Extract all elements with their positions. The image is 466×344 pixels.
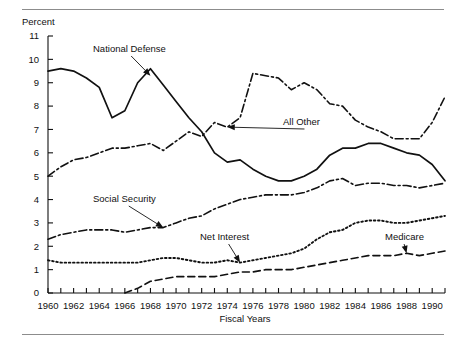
series-line-national-defense — [48, 69, 445, 181]
line-chart: 0123456789101119601962196419661968197019… — [0, 0, 466, 344]
x-axis-tick-label: 1980 — [294, 300, 315, 311]
x-axis-tick-label: 1960 — [37, 300, 58, 311]
annotation-leader-line — [229, 244, 237, 257]
series-annotation-label: Social Security — [93, 193, 156, 204]
x-axis-tick-label: 1988 — [396, 300, 417, 311]
series-annotation-label: National Defense — [93, 43, 166, 54]
y-axis-tick-label: 5 — [34, 171, 39, 182]
x-axis-title: Fiscal Years — [219, 313, 270, 324]
y-axis-tick-label: 3 — [34, 217, 39, 228]
x-axis-tick-label: 1978 — [268, 300, 289, 311]
series-group — [48, 69, 445, 293]
x-axis-tick-label: 1964 — [89, 300, 110, 311]
series-line-all-other — [48, 73, 445, 176]
x-axis-tick-label: 1984 — [345, 300, 366, 311]
y-axis-tick-label: 10 — [28, 54, 39, 65]
annotation-leader-line — [129, 206, 158, 224]
y-axis-tick-label: 0 — [34, 287, 39, 298]
x-axis-tick-label: 1966 — [114, 300, 135, 311]
x-axis-tick-label: 1972 — [191, 300, 212, 311]
series-annotation-label: Medicare — [385, 231, 424, 242]
x-axis-tick-label: 1974 — [217, 300, 238, 311]
y-axis-tick-label: 7 — [34, 124, 39, 135]
x-axis-tick-label: 1976 — [242, 300, 263, 311]
annotation-arrow-head — [402, 245, 408, 253]
x-axis-tick-label: 1970 — [165, 300, 186, 311]
axes-group: 0123456789101119601962196419661968197019… — [28, 30, 445, 311]
series-annotation-label: All Other — [283, 116, 320, 127]
series-annotation-label: Net Interest — [200, 231, 249, 242]
y-axis-caption: Percent — [22, 16, 55, 27]
x-axis-tick-label: 1990 — [422, 300, 443, 311]
annotation-leader-line — [234, 127, 304, 129]
x-axis-tick-label: 1986 — [370, 300, 391, 311]
y-axis-tick-label: 6 — [34, 147, 39, 158]
y-axis-tick-label: 4 — [34, 194, 39, 205]
y-axis-tick-label: 9 — [34, 77, 39, 88]
y-axis-tick-label: 8 — [34, 100, 39, 111]
x-axis-tick-label: 1968 — [140, 300, 161, 311]
x-axis-tick-label: 1962 — [63, 300, 84, 311]
x-axis-tick-label: 1982 — [319, 300, 340, 311]
y-axis-tick-label: 2 — [34, 241, 39, 252]
y-axis-tick-label: 1 — [34, 264, 39, 275]
annotation-arrow-head — [155, 221, 163, 228]
y-axis-tick-label: 11 — [29, 30, 39, 41]
annotation-arrow-head — [227, 124, 235, 130]
annotation-leader-line — [131, 56, 145, 71]
chart-figure: 0123456789101119601962196419661968197019… — [0, 0, 466, 344]
